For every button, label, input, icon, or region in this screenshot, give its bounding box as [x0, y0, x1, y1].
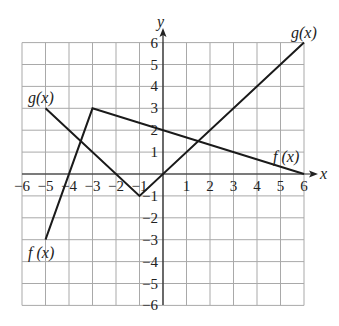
x-tick-label: 6 [300, 178, 308, 194]
x-tick-label: −5 [38, 178, 54, 194]
x-tick-label: 4 [253, 178, 261, 194]
f-label-right: f (x) [273, 148, 299, 166]
x-tick-label: −3 [85, 178, 101, 194]
x-tick-label: 2 [206, 178, 214, 194]
g-label-right: g(x) [291, 24, 317, 42]
coordinate-plane: x y −6−5−4−3−2−1123456 654321−1−2−3−4−5−… [0, 0, 339, 326]
y-tick-label: 1 [151, 144, 159, 160]
y-tick-label: 4 [151, 78, 159, 94]
x-tick-label: −6 [14, 178, 30, 194]
x-tick-labels: −6−5−4−3−2−1123456 [14, 178, 308, 194]
y-tick-label: −3 [142, 232, 158, 248]
y-tick-label: 2 [151, 122, 159, 138]
g-label-left: g(x) [28, 89, 54, 107]
y-tick-label: 5 [151, 57, 159, 73]
y-tick-label: −2 [142, 210, 158, 226]
y-tick-label: −6 [142, 297, 158, 313]
y-tick-label: −4 [142, 254, 158, 270]
y-tick-label: 6 [151, 35, 159, 51]
y-axis-label: y [155, 13, 165, 31]
y-tick-label: 3 [151, 100, 159, 116]
x-tick-label: 3 [230, 178, 238, 194]
x-tick-label: 5 [277, 178, 285, 194]
g-series-line [46, 43, 305, 196]
y-tick-label: −5 [142, 276, 158, 292]
f-label-left: f (x) [28, 244, 54, 262]
x-tick-label: 1 [183, 178, 191, 194]
x-axis-label: x [319, 165, 327, 182]
